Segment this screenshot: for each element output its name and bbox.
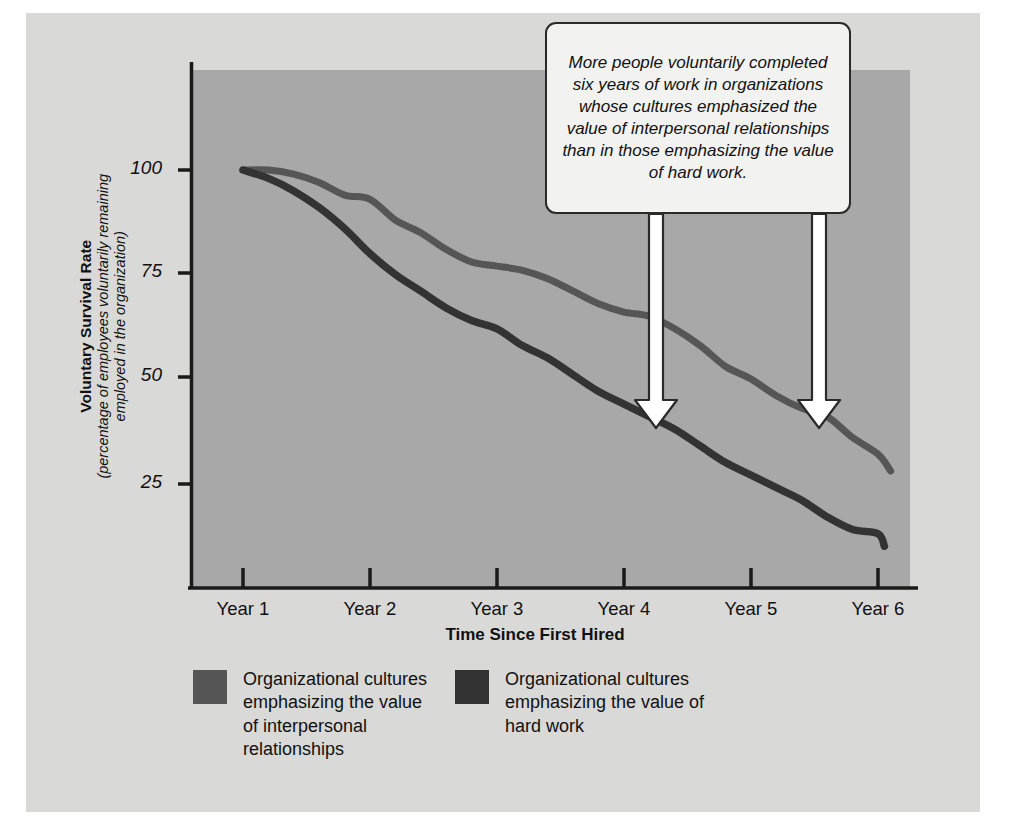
y-tick-label-100: 100 bbox=[106, 157, 162, 179]
y-tick-label-75: 75 bbox=[106, 260, 162, 282]
y-tick-label-50: 50 bbox=[106, 364, 162, 386]
y-axis-title: Voluntary Survival Rate (percentage of e… bbox=[77, 161, 130, 491]
legend-item-interpersonal[interactable]: Organizational cultures emphasizing the … bbox=[193, 668, 433, 762]
callout-box: More people voluntarily completed six ye… bbox=[545, 22, 851, 214]
x-tick-label-year-3: Year 3 bbox=[442, 598, 552, 620]
y-tick-label-25: 25 bbox=[106, 471, 162, 493]
legend-label-interpersonal: Organizational cultures emphasizing the … bbox=[243, 668, 433, 762]
x-tick-label-year-4: Year 4 bbox=[569, 598, 679, 620]
y-axis-title-sub: (percentage of employees voluntarily rem… bbox=[95, 161, 129, 491]
x-axis-title: Time Since First Hired bbox=[355, 625, 715, 645]
x-tick-label-year-5: Year 5 bbox=[696, 598, 806, 620]
x-tick-label-year-6: Year 6 bbox=[823, 598, 933, 620]
legend-swatch-interpersonal bbox=[193, 670, 227, 704]
x-tick-label-year-2: Year 2 bbox=[315, 598, 425, 620]
callout-text: More people voluntarily completed six ye… bbox=[557, 52, 839, 184]
legend-label-hard-work: Organizational cultures emphasizing the … bbox=[505, 668, 725, 738]
legend-swatch-hard-work bbox=[455, 670, 489, 704]
x-tick-label-year-1: Year 1 bbox=[188, 598, 298, 620]
legend-item-hard-work[interactable]: Organizational cultures emphasizing the … bbox=[455, 668, 725, 738]
y-axis-title-main: Voluntary Survival Rate bbox=[77, 161, 95, 491]
